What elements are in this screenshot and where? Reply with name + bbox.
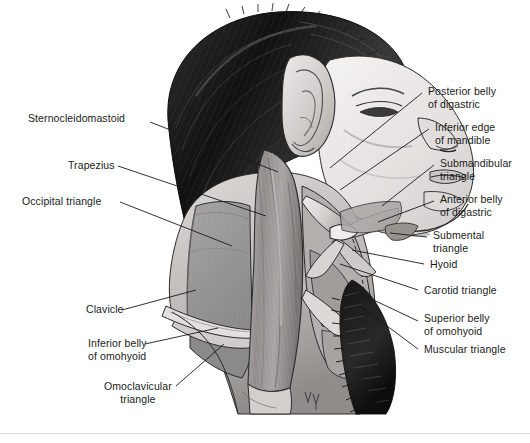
- label-sternocleidomastoid: Sternocleidomastoid: [28, 112, 125, 125]
- label-muscular-triangle: Muscular triangle: [424, 343, 506, 356]
- label-occipital-triangle: Occipital triangle: [22, 195, 101, 208]
- label-carotid-triangle: Carotid triangle: [424, 284, 497, 297]
- label-inferior-belly-of-omohyoid: Inferior belly of omohyoid: [88, 337, 147, 362]
- label-clavicle: Clavicle: [86, 303, 124, 316]
- label-submental-triangle: Submental triangle: [433, 229, 484, 254]
- bottom-divider: [0, 433, 530, 434]
- anatomy-figure-page: Sternocleidomastoid Trapezius Occipital …: [0, 0, 530, 443]
- neck-triangles-illustration: [0, 0, 530, 443]
- label-trapezius: Trapezius: [68, 159, 115, 172]
- label-hyoid: Hyoid: [430, 258, 457, 271]
- label-submandibular-triangle: Submandibular triangle: [440, 157, 512, 182]
- label-inferior-edge-of-mandible: Inferior edge of mandible: [435, 121, 495, 146]
- label-superior-belly-of-omohyoid: Superior belly of omohyoid: [424, 312, 490, 337]
- label-omoclavicular-triangle: Omoclavicular triangle: [104, 380, 172, 405]
- label-posterior-belly-of-digastric: Posterior belly of digastric: [428, 85, 496, 110]
- label-anterior-belly-of-digastric: Anterior belly of digastric: [440, 193, 503, 218]
